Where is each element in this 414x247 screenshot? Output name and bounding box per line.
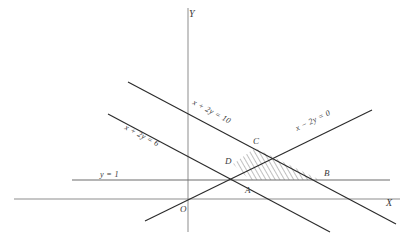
- x-axis-label: X: [385, 197, 393, 208]
- label-x-plus-2y-10: x + 2y = 10: [190, 97, 232, 125]
- label-x-minus-2y-0: x − 2y = 0: [293, 108, 332, 133]
- feasible-region: [233, 148, 320, 180]
- label-x-plus-2y-6: x + 2y = 6: [122, 122, 161, 148]
- point-d-label: D: [224, 156, 232, 166]
- graph-canvas: x + 2y = 10 x + 2y = 6 x − 2y = 0 y = 1 …: [0, 0, 414, 247]
- origin-label: O: [180, 204, 187, 214]
- point-a-label: A: [244, 185, 251, 195]
- y-axis-label: Y: [189, 8, 196, 19]
- point-b-label: B: [324, 168, 330, 178]
- label-y-1: y = 1: [99, 170, 119, 179]
- point-c-label: C: [253, 136, 260, 146]
- line-x-plus-2y-10: [128, 82, 396, 224]
- linear-inequalities-figure: x + 2y = 10 x + 2y = 6 x − 2y = 0 y = 1 …: [0, 0, 414, 247]
